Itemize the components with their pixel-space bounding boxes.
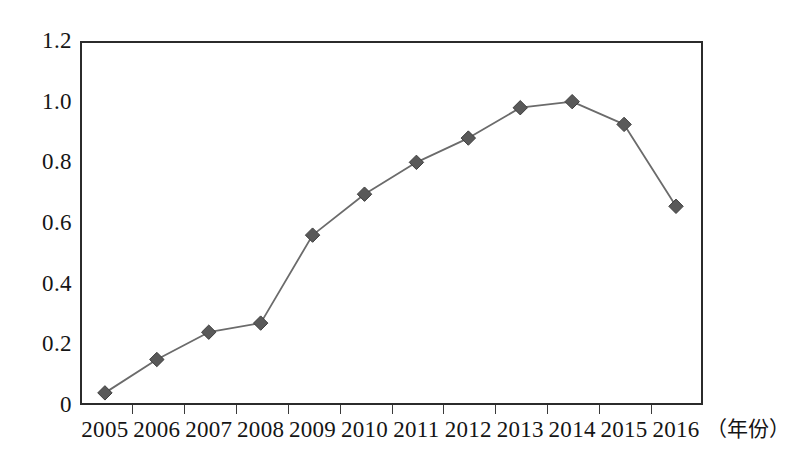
y-axis-tick-label: 0 bbox=[0, 393, 72, 416]
y-axis-tick-label: 1.2 bbox=[0, 29, 72, 52]
y-axis-tick-label: 0.2 bbox=[0, 332, 72, 355]
x-axis-tick-mark bbox=[184, 405, 185, 414]
x-axis-tick-mark bbox=[340, 405, 341, 414]
x-axis-tick-mark bbox=[547, 405, 548, 414]
x-axis-tick-mark bbox=[443, 405, 444, 414]
x-axis-title: （年份） bbox=[706, 416, 790, 443]
x-axis-tick-mark bbox=[288, 405, 289, 414]
x-axis-tick-mark bbox=[236, 405, 237, 414]
y-axis-tick-label: 0.8 bbox=[0, 150, 72, 173]
x-axis-tick-mark bbox=[651, 405, 652, 414]
x-axis-tick-mark bbox=[132, 405, 133, 414]
line-chart: 00.20.40.60.81.01.2 20052006200720082009… bbox=[0, 0, 811, 454]
y-axis-tick-label: 0.4 bbox=[0, 272, 72, 295]
plot-area-border bbox=[80, 41, 703, 405]
y-axis-tick-label: 1.0 bbox=[0, 90, 72, 113]
x-axis-tick-mark bbox=[599, 405, 600, 414]
x-axis-tick-mark bbox=[392, 405, 393, 414]
x-axis-tick-mark bbox=[495, 405, 496, 414]
y-axis-tick-label: 0.6 bbox=[0, 211, 72, 234]
